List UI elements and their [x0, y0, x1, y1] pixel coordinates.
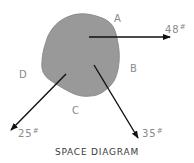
pound-symbol: # — [33, 127, 39, 135]
rigid-body-blob — [42, 14, 119, 96]
pound-symbol: # — [180, 23, 186, 31]
force-label-25: 25# — [18, 126, 39, 139]
force-label-35: 35# — [142, 126, 163, 139]
region-label-d: D — [19, 70, 27, 80]
force-magnitude: 48 — [165, 24, 180, 35]
force-magnitude: 25 — [18, 128, 33, 139]
force-magnitude: 35 — [142, 128, 157, 139]
region-label-b: B — [130, 64, 137, 74]
force-label-48: 48# — [165, 22, 186, 35]
force-arrow-25 — [11, 74, 66, 130]
region-label-c: C — [72, 106, 79, 116]
space-diagram: A B C D 48# 35# 25# SPACE DIAGRAM — [0, 0, 194, 163]
region-label-a: A — [114, 14, 121, 24]
diagram-title: SPACE DIAGRAM — [0, 147, 194, 157]
pound-symbol: # — [157, 127, 163, 135]
